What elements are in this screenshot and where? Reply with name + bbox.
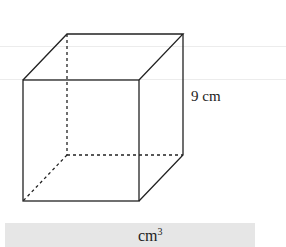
cube-diagram [0,0,286,247]
right-face [139,34,183,201]
answer-unit: cm3 [138,226,163,245]
hidden-edge-diagonal [23,155,67,201]
answer-input-box[interactable] [5,223,255,247]
edge-length-label: 9 cm [191,88,221,105]
top-face [23,34,183,80]
